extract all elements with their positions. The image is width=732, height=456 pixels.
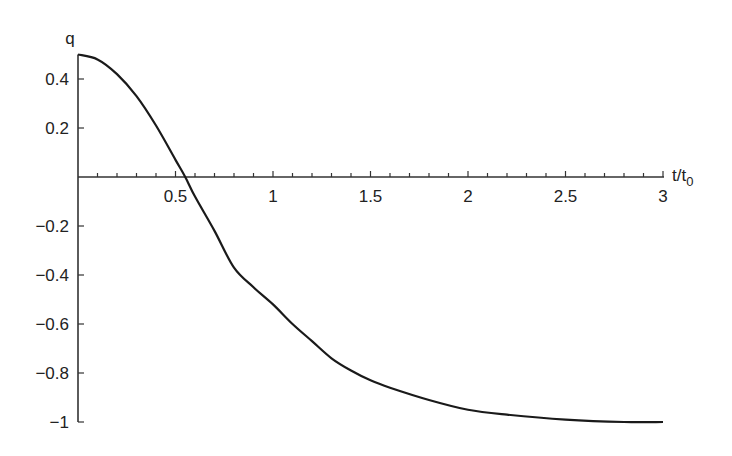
- x-tick-label: 3: [658, 187, 667, 206]
- y-tick-label: −0.4: [35, 266, 69, 285]
- x-axis-label-subscript: 0: [686, 174, 693, 189]
- y-tick-label: −0.6: [35, 315, 69, 334]
- y-tick-label: 0.2: [45, 119, 69, 138]
- x-tick-label: 1: [268, 187, 277, 206]
- x-tick-label: 1.5: [359, 187, 383, 206]
- y-axis-label: q: [65, 29, 74, 48]
- y-tick-label: −1: [50, 413, 69, 432]
- x-tick-label: 0.5: [164, 187, 188, 206]
- x-axis-label: t/t0: [672, 166, 693, 189]
- y-tick-label: −0.2: [35, 217, 69, 236]
- x-axis-label-main: t/t: [672, 166, 686, 185]
- y-tick-label: −0.8: [35, 364, 69, 383]
- y-tick-label: 0.4: [45, 70, 69, 89]
- x-tick-label: 2.5: [554, 187, 578, 206]
- line-chart: 0.511.522.530.40.2−0.2−0.4−0.6−0.8−1qt/t…: [0, 0, 732, 456]
- x-tick-label: 2: [463, 187, 472, 206]
- data-line: [78, 55, 663, 423]
